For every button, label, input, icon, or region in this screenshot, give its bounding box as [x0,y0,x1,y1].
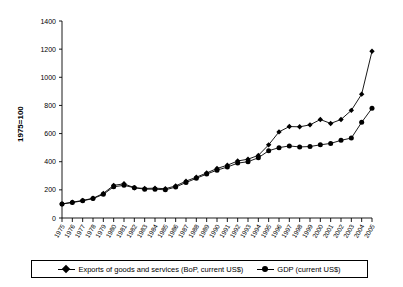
data-point-marker [111,184,116,189]
series-line-0 [62,51,372,204]
data-point-marker [318,117,323,122]
y-tick-label: 400 [44,158,56,165]
data-point-marker [163,187,168,192]
data-point-marker [142,187,147,192]
data-point-marker [297,124,302,129]
data-point-marker [370,106,375,111]
data-point-marker [122,183,127,188]
data-point-marker [266,148,271,153]
data-point-marker [297,144,302,149]
data-point-marker [277,145,282,150]
legend-label-exports: Exports of goods and services (BoP, curr… [78,265,243,274]
data-point-marker [70,200,75,205]
x-axis: 1975197619771978197919801981198219831984… [53,218,376,239]
y-tick-label: 1200 [40,46,56,53]
x-tick-label: 2005 [363,223,376,239]
data-point-marker [308,144,313,149]
data-point-marker [225,165,230,170]
data-point-marker [287,124,292,129]
data-point-marker [101,192,106,197]
data-point-marker [215,168,220,173]
diamond-marker-icon [58,265,75,274]
y-axis: 0200400600800100012001400 [40,18,62,222]
data-point-marker [359,91,364,96]
data-point-marker [369,49,374,54]
data-point-marker [204,172,209,177]
y-tick-label: 200 [44,186,56,193]
data-point-marker [328,121,333,126]
data-point-marker [173,185,178,190]
data-point-marker [60,201,65,206]
data-point-marker [184,180,189,185]
y-tick-label: 1000 [40,74,56,81]
line-chart-plot: 0200400600800100012001400 19751976197719… [0,0,403,287]
y-tick-label: 1400 [40,18,56,25]
data-point-marker [287,143,292,148]
circle-marker-icon [257,265,274,274]
data-point-marker [91,196,96,201]
legend-label-gdp: GDP (current US$) [277,265,340,274]
data-point-marker [235,161,240,166]
data-point-marker [153,187,158,192]
data-point-marker [80,198,85,203]
chart-legend: Exports of goods and services (BoP, curr… [31,260,368,278]
y-tick-label: 800 [44,102,56,109]
legend-item-exports: Exports of goods and services (BoP, curr… [58,265,243,274]
data-point-marker [194,176,199,181]
data-point-marker [359,120,364,125]
chart-container: 1975=100 0200400600800100012001400 19751… [0,0,403,287]
legend-item-gdp: GDP (current US$) [257,265,340,274]
data-series-group [59,49,374,207]
data-point-marker [339,138,344,143]
data-point-marker [256,155,261,160]
y-tick-label: 0 [52,215,56,222]
data-point-marker [132,185,137,190]
data-point-marker [349,136,354,141]
data-point-marker [328,141,333,146]
data-point-marker [318,142,323,147]
y-tick-label: 600 [44,130,56,137]
data-point-marker [246,159,251,164]
data-point-marker [307,122,312,127]
